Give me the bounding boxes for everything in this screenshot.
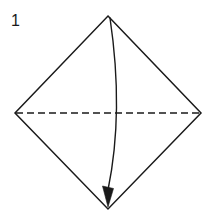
step-number-label: 1: [11, 12, 20, 30]
fold-direction-arrow-shaft: [108, 18, 117, 190]
origami-diagram: 1: [0, 0, 211, 223]
fold-direction-arrow-head: [103, 186, 114, 207]
origami-figure: [0, 0, 211, 223]
